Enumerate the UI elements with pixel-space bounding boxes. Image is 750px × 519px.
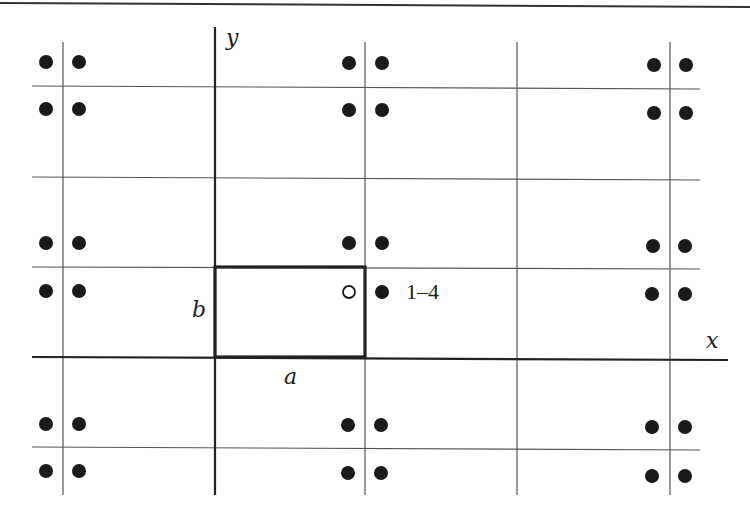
- x-axis-label: x: [706, 328, 719, 353]
- y-axis-label: y: [225, 25, 239, 50]
- open-circle-position: [343, 286, 355, 298]
- unit-cell-b-label: b: [192, 297, 206, 322]
- position-label: 1–4: [406, 279, 439, 304]
- top-rule: [0, 3, 750, 7]
- unit-cell: [215, 267, 365, 357]
- lattice-diagram: y x b a 1–4: [0, 0, 750, 519]
- x-axis: [32, 357, 728, 360]
- unit-cell-a-label: a: [284, 364, 297, 389]
